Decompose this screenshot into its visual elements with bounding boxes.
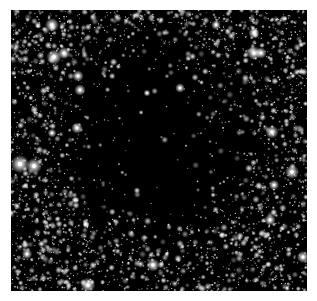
star-field-canvas: [11, 10, 307, 291]
star-field-image: [11, 10, 307, 291]
